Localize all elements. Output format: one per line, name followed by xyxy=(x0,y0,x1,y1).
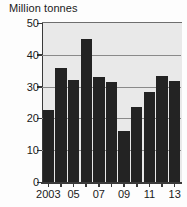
x-tick-mark xyxy=(73,183,75,187)
x-tick-mark xyxy=(123,183,125,187)
bar xyxy=(131,107,142,182)
bar xyxy=(68,80,79,182)
x-tick-mark xyxy=(98,183,100,187)
y-axis-label: 50 xyxy=(27,17,39,29)
bar xyxy=(55,68,66,182)
y-axis-label: 0 xyxy=(33,176,39,188)
bar xyxy=(81,39,92,182)
x-tick-mark xyxy=(111,183,113,187)
bar xyxy=(118,131,129,182)
bar-chart-figure: Million tonnes 0102030405020030507091113 xyxy=(0,0,187,207)
bar xyxy=(93,77,104,182)
y-axis-label: 40 xyxy=(27,49,39,61)
x-tick-mark xyxy=(48,183,50,187)
x-axis-label: 13 xyxy=(169,188,181,200)
x-tick-mark xyxy=(149,183,151,187)
gridline xyxy=(42,55,181,56)
y-axis-label: 10 xyxy=(27,144,39,156)
x-tick-mark xyxy=(161,183,163,187)
bar xyxy=(43,110,54,183)
bar xyxy=(169,81,180,182)
y-axis-label: 20 xyxy=(27,112,39,124)
x-tick-mark xyxy=(85,183,87,187)
x-axis-label: 05 xyxy=(67,188,79,200)
x-axis-label: 09 xyxy=(118,188,130,200)
x-tick-mark xyxy=(174,183,176,187)
y-axis-label: 30 xyxy=(27,81,39,93)
bar xyxy=(156,76,167,182)
x-tick-mark xyxy=(136,183,138,187)
x-axis-label: 07 xyxy=(93,188,105,200)
chart-title: Million tonnes xyxy=(9,2,78,14)
bar xyxy=(106,82,117,182)
bar xyxy=(144,92,155,182)
x-axis-label: 2003 xyxy=(36,188,60,200)
x-tick-mark xyxy=(60,183,62,187)
x-axis-label: 11 xyxy=(144,188,155,200)
